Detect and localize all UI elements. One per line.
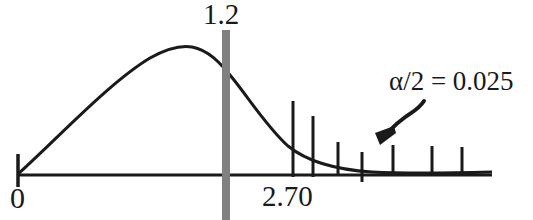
critical-value-label: 2.70 — [262, 182, 313, 211]
chi-square-figure: 1.2 0 2.70 α/2 = 0.025 — [0, 0, 533, 220]
peak-marker-label: 1.2 — [203, 0, 239, 29]
alpha-annotation-label: α/2 = 0.025 — [389, 68, 514, 95]
origin-label: 0 — [10, 183, 25, 213]
upper-tail-hatch-lines — [293, 101, 462, 182]
alpha-callout-arrowhead — [375, 126, 396, 145]
peak-marker-bar — [222, 30, 230, 220]
